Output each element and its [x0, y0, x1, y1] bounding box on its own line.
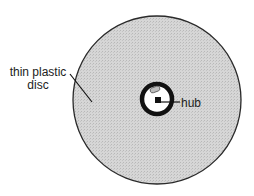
floppy-disc-diagram: thin plastic disc hub	[0, 0, 254, 196]
hub-spindle-hole	[155, 97, 161, 103]
hub-label: hub	[181, 97, 201, 110]
diagram-canvas	[0, 0, 254, 196]
disc-label: thin plastic disc	[6, 66, 70, 92]
disc-label-line2: disc	[6, 79, 70, 92]
